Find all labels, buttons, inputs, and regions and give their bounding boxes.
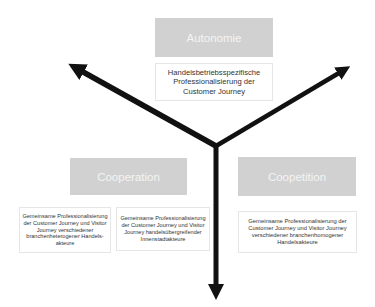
cooperation-header: Cooperation: [70, 158, 187, 195]
autonomie-header: Autonomie: [155, 18, 273, 57]
coopetition-label: Coopetition: [268, 171, 326, 183]
diagram-canvas: Autonomie Handelsbetriebsspezifische Pro…: [0, 0, 375, 307]
coopetition-description: Gemeinsame Professionalisierung der Cust…: [243, 218, 352, 246]
coopetition-header: Coopetition: [238, 157, 356, 196]
cooperation-description-2: Gemeinsame Professionalisierung der Cust…: [119, 215, 207, 242]
cooperation-description-box-2: Gemeinsame Professionalisierung der Cust…: [116, 207, 210, 251]
coopetition-description-box: Gemeinsame Professionalisierung der Cust…: [238, 211, 357, 253]
cooperation-label: Cooperation: [97, 171, 160, 183]
autonomie-description-box: Handelsbetriebsspezifische Professionali…: [155, 63, 273, 101]
cooperation-description-1: Gemeinsame Professionalisierung der Cust…: [22, 213, 108, 247]
autonomie-description: Handelsbetriebsspezifische Professionali…: [156, 68, 272, 96]
autonomie-label: Autonomie: [187, 32, 242, 44]
cooperation-description-box-1: Gemeinsame Professionalisierung der Cust…: [19, 207, 111, 253]
